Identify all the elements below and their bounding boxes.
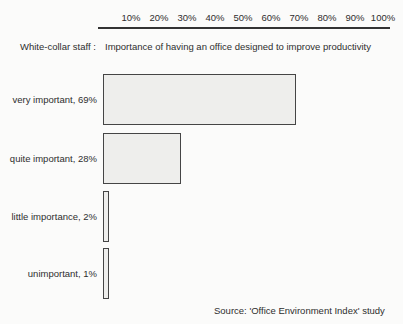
x-tick: 10%	[117, 12, 145, 24]
x-axis-line	[98, 27, 390, 29]
category-label: little importance, 2%	[0, 211, 100, 223]
category-label: very important, 69%	[0, 94, 100, 106]
bar-row: little importance, 2%	[0, 191, 403, 242]
x-tick: 30%	[173, 12, 201, 24]
bar-row: very important, 69%	[0, 74, 403, 125]
bar-very-important	[103, 74, 296, 125]
bar-quite-important	[103, 133, 181, 184]
x-tick: 100%	[369, 12, 397, 24]
bar-row: unimportant, 1%	[0, 248, 403, 299]
chart-title: Importance of having an office designed …	[105, 41, 371, 53]
x-axis-tick-labels: 10% 20% 30% 40% 50% 60% 70% 80% 90% 100%	[117, 12, 397, 24]
x-tick: 70%	[285, 12, 313, 24]
x-tick: 90%	[341, 12, 369, 24]
x-tick: 50%	[229, 12, 257, 24]
x-tick: 20%	[145, 12, 173, 24]
x-tick: 80%	[313, 12, 341, 24]
bar-row: quite important, 28%	[0, 133, 403, 184]
source-note: Source: 'Office Environment Index' study	[214, 305, 385, 317]
bar-unimportant	[103, 248, 109, 299]
x-tick: 40%	[201, 12, 229, 24]
bar-little-importance	[103, 191, 109, 242]
x-tick: 60%	[257, 12, 285, 24]
category-label: unimportant, 1%	[0, 268, 100, 280]
group-label: White-collar staff :	[20, 41, 96, 53]
bar-chart-figure: 10% 20% 30% 40% 50% 60% 70% 80% 90% 100%…	[0, 0, 403, 324]
category-label: quite important, 28%	[0, 153, 100, 165]
